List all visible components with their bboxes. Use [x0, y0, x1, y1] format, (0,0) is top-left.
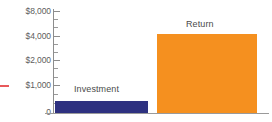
bar-investment — [55, 101, 148, 113]
bar-label-investment: Investment — [74, 84, 119, 94]
x-axis-line — [45, 113, 269, 114]
bar-chart: $8,000 $4,000 $2,000 $1,000 0 Investment… — [0, 0, 272, 122]
bar-return — [157, 34, 257, 113]
bar-label-return: Return — [186, 19, 214, 29]
plot-area: Investment Return — [0, 0, 272, 122]
